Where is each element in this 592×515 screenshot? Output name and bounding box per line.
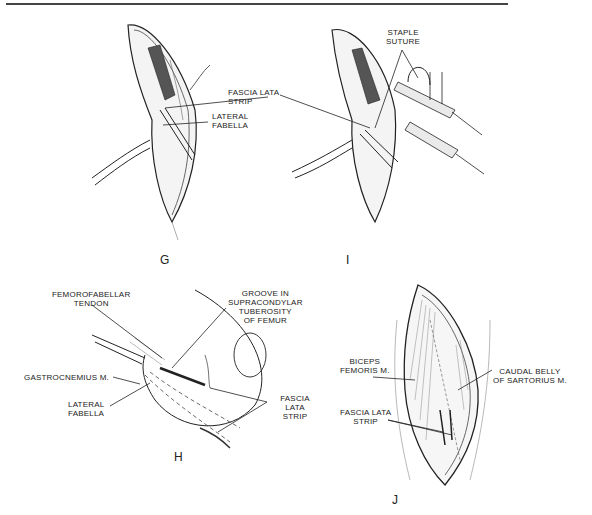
label-caudal-belly-sartorius: CAUDAL BELLY OF SARTORIUS M. bbox=[493, 367, 567, 385]
label-lateral-fabella-h: LATERAL FABELLA bbox=[68, 400, 104, 418]
label-gastrocnemius: GASTROCNEMIUS M. bbox=[24, 373, 109, 382]
surgical-illustration-i bbox=[280, 0, 592, 260]
surgical-illustration-g bbox=[0, 0, 300, 260]
label-lateral-fabella: LATERAL FABELLA bbox=[212, 112, 248, 130]
panel-g: FASCIA LATA STRIP LATERAL FABELLA G bbox=[0, 0, 300, 260]
panel-j: BICEPS FEMORIS M. CAUDAL BELLY OF SARTOR… bbox=[300, 260, 592, 515]
panel-letter-j: J bbox=[392, 493, 398, 507]
label-fascia-lata-strip-j: FASCIA LATA STRIP bbox=[340, 408, 391, 426]
label-biceps-femoris: BICEPS FEMORIS M. bbox=[340, 357, 390, 375]
label-femorofabellar-tendon: FEMOROFABELLAR TENDON bbox=[52, 290, 130, 308]
panel-i: STAPLE SUTURE I bbox=[280, 0, 592, 260]
panel-letter-h: H bbox=[174, 450, 183, 464]
surgical-illustration-j bbox=[300, 260, 592, 515]
label-staple-suture: STAPLE SUTURE bbox=[386, 28, 420, 46]
panel-h: FEMOROFABELLAR TENDON GROOVE IN SUPRACON… bbox=[0, 260, 320, 515]
label-groove-supracondylar: GROOVE IN SUPRACONDYLAR TUBEROSITY OF FE… bbox=[228, 289, 303, 325]
